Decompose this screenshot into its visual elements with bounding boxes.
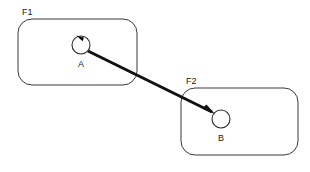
- frames-diagram: F1 F2 A B: [0, 0, 310, 172]
- node-b-group: B: [212, 110, 230, 143]
- node-a-group: A: [72, 36, 90, 69]
- frame-f2-label: F2: [186, 76, 197, 86]
- edge-a-to-b-arrowhead: [202, 105, 215, 115]
- frame-f1-outline: [18, 19, 137, 85]
- node-b-circle: [212, 110, 230, 128]
- frame-f2-outline: [181, 88, 298, 155]
- frame-f1-group: F1: [18, 7, 137, 85]
- figure-canvas: F1 F2 A B: [0, 0, 310, 172]
- node-b-label: B: [218, 133, 224, 143]
- node-a-label: A: [78, 59, 84, 69]
- frame-f1-label: F1: [22, 7, 33, 17]
- frame-f2-group: F2: [181, 76, 298, 155]
